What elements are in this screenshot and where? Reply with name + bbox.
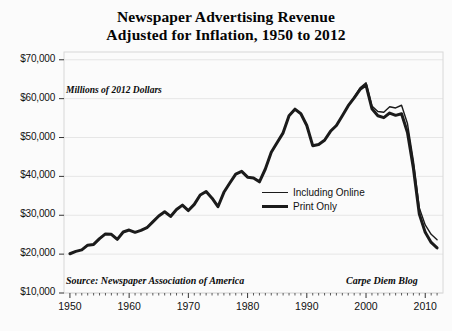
x-axis-tick-label: 1970: [168, 300, 208, 312]
legend-label: Including Online: [293, 187, 365, 198]
x-axis-tick-label: 1950: [50, 300, 90, 312]
y-axis-tick-label: $50,000: [3, 131, 55, 142]
chart-figure: Newspaper Advertising Revenue Adjusted f…: [0, 0, 452, 331]
y-axis-tick-label: $10,000: [3, 286, 55, 297]
legend-line-swatch: [262, 205, 288, 208]
tick-marks: [59, 60, 437, 298]
x-axis-tick-label: 1990: [287, 300, 327, 312]
legend-label: Print Only: [293, 201, 337, 212]
legend-item[interactable]: Print Only: [262, 199, 365, 213]
x-axis-tick-label: 1960: [109, 300, 149, 312]
chart-legend: Including OnlinePrint Only: [262, 185, 365, 213]
credit-annotation: Carpe Diem Blog: [346, 275, 418, 286]
x-axis-tick-label: 2010: [405, 300, 445, 312]
source-annotation: Source: Newspaper Association of America: [66, 275, 244, 286]
x-axis-tick-label: 1980: [228, 300, 268, 312]
y-axis-tick-label: $70,000: [3, 53, 55, 64]
y-axis-tick-label: $30,000: [3, 208, 55, 219]
data-series: [70, 83, 437, 254]
y-axis-tick-label: $20,000: [3, 247, 55, 258]
x-axis-tick-label: 2000: [346, 300, 386, 312]
legend-item[interactable]: Including Online: [262, 185, 365, 199]
legend-line-swatch: [262, 192, 288, 193]
units-annotation: Millions of 2012 Dollars: [66, 85, 162, 95]
y-axis-tick-label: $60,000: [3, 92, 55, 103]
y-axis-tick-label: $40,000: [3, 169, 55, 180]
